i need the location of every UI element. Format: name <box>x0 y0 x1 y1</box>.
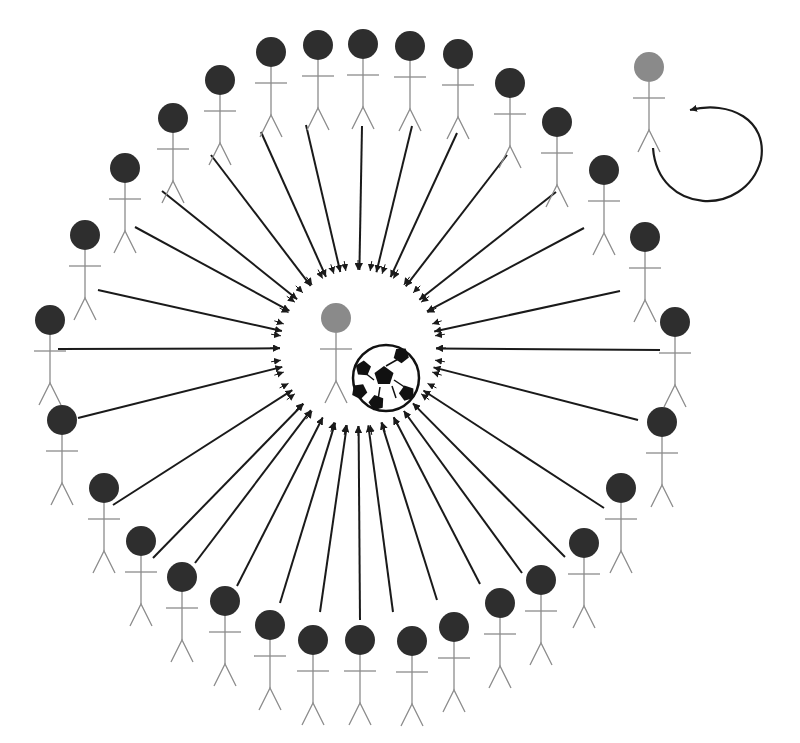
outer-player <box>297 625 329 725</box>
pass-arrow <box>98 290 282 331</box>
player-head <box>35 305 65 335</box>
center-player <box>320 303 352 403</box>
player-head <box>647 407 677 437</box>
pass-arrow <box>58 348 280 349</box>
player-legs <box>638 130 660 152</box>
player-legs <box>651 485 673 507</box>
player-legs <box>401 704 423 726</box>
player-head <box>443 39 473 69</box>
arrowhead <box>370 261 372 271</box>
pass-arrow <box>195 410 311 563</box>
pass-arrow <box>423 391 604 509</box>
player-legs <box>634 300 656 322</box>
arrowhead <box>280 383 289 388</box>
arrowhead <box>435 334 445 336</box>
pass-arrow <box>306 125 340 272</box>
outer-player <box>204 65 236 165</box>
pass-arrow <box>434 291 620 331</box>
outer-player <box>646 407 678 507</box>
player-head <box>589 155 619 185</box>
player-legs <box>664 385 686 407</box>
player-legs <box>209 143 231 165</box>
pass-arrow <box>368 425 393 612</box>
rotation-arrow-icon <box>653 107 762 201</box>
player-legs <box>546 185 568 207</box>
player-legs <box>260 115 282 137</box>
player-legs <box>51 483 73 505</box>
player-head <box>256 37 286 67</box>
player-legs <box>573 606 595 628</box>
outer-player <box>394 31 426 131</box>
arrowhead <box>344 261 346 271</box>
arrowhead <box>296 286 303 293</box>
pass-arrow <box>391 133 457 277</box>
outer-player <box>209 586 241 686</box>
player-legs <box>593 233 615 255</box>
outer-player <box>525 565 557 665</box>
pass-arrow <box>406 155 507 286</box>
player-legs <box>499 146 521 168</box>
outer-player <box>255 37 287 137</box>
player-legs <box>349 703 371 725</box>
arrowhead <box>274 372 284 375</box>
pass-arrow <box>359 126 362 270</box>
outer-player <box>88 473 120 573</box>
outer-player <box>568 528 600 628</box>
outer-player <box>34 305 66 405</box>
arrowhead <box>421 394 429 400</box>
arrowhead <box>427 383 436 388</box>
arrowhead <box>413 286 420 293</box>
arrowhead <box>432 372 442 375</box>
pass-arrow <box>78 367 282 418</box>
player-head <box>606 473 636 503</box>
player-head <box>205 65 235 95</box>
player-legs <box>610 551 632 573</box>
pass-arrow <box>376 126 412 272</box>
player-head <box>167 562 197 592</box>
soccer-ball-icon <box>352 345 419 411</box>
player-legs <box>307 108 329 130</box>
player-legs <box>325 381 347 403</box>
player-head <box>485 588 515 618</box>
center-area <box>320 303 419 411</box>
arrowhead <box>274 321 284 324</box>
outer-player <box>166 562 198 662</box>
outer-player <box>659 307 691 407</box>
arrowhead <box>370 425 372 435</box>
outer-player <box>396 626 428 726</box>
arrowhead <box>435 360 445 362</box>
pass-arrow <box>413 403 565 557</box>
player-head <box>395 31 425 61</box>
pass-arrow <box>434 367 639 420</box>
player-legs <box>39 383 61 405</box>
player-head <box>348 29 378 59</box>
arrowhead <box>382 264 385 274</box>
player-legs <box>530 643 552 665</box>
outer-player <box>438 612 470 712</box>
player-head <box>110 153 140 183</box>
outer-player <box>541 107 573 207</box>
outer-player <box>109 153 141 253</box>
arrowhead <box>413 403 420 410</box>
outer-player <box>157 103 189 203</box>
player-head <box>397 626 427 656</box>
outer-player <box>494 68 526 168</box>
player-legs <box>171 640 193 662</box>
outer-player <box>588 155 620 255</box>
pass-arrow <box>211 155 311 286</box>
arrowhead <box>432 321 442 324</box>
outer-player <box>125 526 157 626</box>
player-head <box>345 625 375 655</box>
pass-arrow <box>427 228 584 311</box>
pass-arrow <box>237 418 323 587</box>
arrowhead <box>318 417 323 426</box>
pass-arrow <box>135 227 289 311</box>
player-legs <box>214 664 236 686</box>
passing-drill-diagram <box>0 0 800 743</box>
player-head <box>634 52 664 82</box>
player-head <box>569 528 599 558</box>
arrowhead <box>271 334 281 336</box>
pass-arrow <box>162 191 297 299</box>
outer-player <box>69 220 101 320</box>
pass-arrow <box>320 425 347 612</box>
